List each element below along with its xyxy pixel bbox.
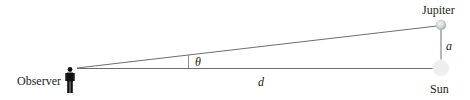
line-observer-to-jupiter	[77, 26, 437, 68]
sun-core	[434, 61, 448, 75]
diagram-canvas	[0, 0, 470, 100]
jupiter-icon	[436, 20, 446, 30]
parallax-diagram: Observer Jupiter Sun θ d a	[0, 0, 470, 100]
angle-theta-label: θ	[195, 56, 201, 68]
observer-figure-icon	[65, 67, 74, 93]
observer-label: Observer	[17, 75, 61, 87]
sun-label: Sun	[430, 83, 449, 95]
separation-a-label: a	[446, 40, 452, 52]
distance-d-label: d	[258, 76, 264, 88]
jupiter-label: Jupiter	[422, 4, 455, 16]
